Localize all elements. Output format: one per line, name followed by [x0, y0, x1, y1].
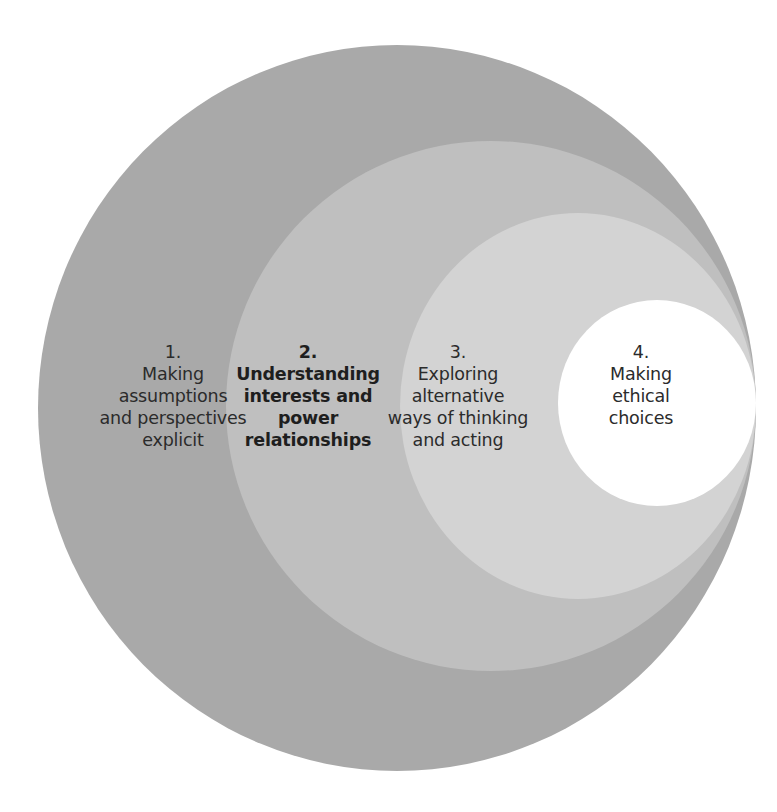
stage-3-label: 3. Exploring alternative ways of thinkin…: [382, 341, 534, 451]
stage-3-line-4: and acting: [382, 429, 534, 451]
stage-2-label: 2. Understanding interests and power rel…: [236, 341, 380, 451]
stage-2-line-1: Understanding: [236, 363, 380, 385]
stage-2-number: 2.: [236, 341, 380, 363]
stage-1-line-1: Making: [98, 363, 248, 385]
stage-3-line-1: Exploring: [382, 363, 534, 385]
stage-4-line-1: Making: [594, 363, 688, 385]
stage-2-line-3: power: [236, 407, 380, 429]
stage-1-line-2: assumptions: [98, 385, 248, 407]
nested-circles-diagram: 1. Making assumptions and perspectives e…: [0, 0, 777, 812]
stage-1-line-4: explicit: [98, 429, 248, 451]
stage-4-line-2: ethical: [594, 385, 688, 407]
stage-4-label: 4. Making ethical choices: [594, 341, 688, 429]
stage-1-number: 1.: [98, 341, 248, 363]
stage-2-line-2: interests and: [236, 385, 380, 407]
stage-3-line-3: ways of thinking: [382, 407, 534, 429]
stage-1-label: 1. Making assumptions and perspectives e…: [98, 341, 248, 451]
stage-3-line-2: alternative: [382, 385, 534, 407]
stage-3-number: 3.: [382, 341, 534, 363]
stage-1-line-3: and perspectives: [98, 407, 248, 429]
stage-2-line-4: relationships: [236, 429, 380, 451]
stage-4-number: 4.: [594, 341, 688, 363]
stage-4-line-3: choices: [594, 407, 688, 429]
